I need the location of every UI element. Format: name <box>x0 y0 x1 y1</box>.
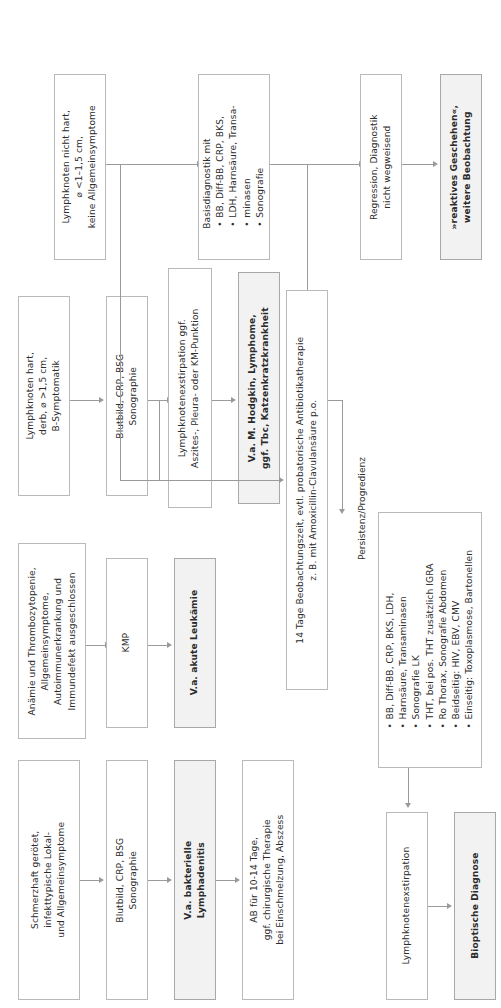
row3-connector-1 <box>70 400 100 401</box>
row1-arrow-2 <box>167 877 172 883</box>
row2-symptoms-line1: Anämie und Thrombozytopenie, <box>26 567 39 715</box>
extended-bullet-1-line2: Harnsäure, Transaminasen <box>398 596 408 719</box>
observation-box: 14 Tage Beobachtungszeit, evtl. probator… <box>286 290 328 690</box>
row1-therapy-text: AB für 10-14 Tage, ggf. chirurgische The… <box>248 815 288 945</box>
row3-suspicion-line1: V.a. M. Hodgkin, Lymphome, <box>246 307 259 469</box>
row1-symptoms-line2: infekttypische Lokal- <box>42 822 55 938</box>
row1-symptoms-line3: und Allgemeinsymptome <box>56 822 69 938</box>
extended-bullet-4-line1: Ro Thorax, Sonografie Abdomen <box>438 569 448 719</box>
row3-connector-3 <box>212 400 232 401</box>
row4-basis-bullet-1-cont-a: LDH, Harnsäure, Transa- <box>227 105 240 217</box>
row3-suspicion-text: V.a. M. Hodgkin, Lymphome, ggf. Tbc, Kat… <box>246 307 272 469</box>
persistenz-vertical <box>342 400 343 510</box>
row2-symptoms-box: Anämie und Thrombozytopenie, Allgemeinsy… <box>18 543 86 739</box>
row2-suspicion-box: V.a. akute Leukämie <box>174 558 216 728</box>
row3-symptoms-line1: Lymphknoten hart, <box>24 352 37 440</box>
extended-bullet-5: Beidseitig: HIV, EBV, CMV <box>450 550 463 720</box>
bus-row4-to-observation <box>120 480 280 481</box>
row1-suspicion-text: V.a. bakterielle Lymphadenitis <box>182 841 208 920</box>
row1-therapy-line1: AB für 10-14 Tage, <box>248 815 261 945</box>
persistenz-arrow <box>339 509 345 514</box>
row4-connector-2 <box>270 164 360 165</box>
row1-diagnostics-text: Blutbild, CRP, BSG Sonographie <box>114 838 140 923</box>
extended-bullet-1-line1: BB, Diff-BB, CRP, BKS, LDH, <box>385 592 395 719</box>
observation-line1: 14 Tage Beobachtungszeit, evtl. probator… <box>294 337 307 644</box>
row3-extirpation-line1: Lymphknotenexstirpation ggf. <box>177 308 190 467</box>
row1-therapy-line3: bei Einschmelzung, Abszess <box>275 815 288 945</box>
row4-symptoms-line1: Lymphknoten nicht hart, <box>60 105 73 228</box>
extended-bullet-6-line1: Einseitig: Toxoplasmose, Bartonellen <box>464 550 474 720</box>
row1-therapy-line2: ggf. chirurgische Therapie <box>261 815 274 945</box>
row4-symptoms-text: Lymphknoten nicht hart, ⌀ <1–1,5 cm, kei… <box>60 105 100 228</box>
row3-diagnostics-line2: Sonographie <box>127 354 140 439</box>
observation-line2: z. B. mit Amoxicillin-Clavulansäure p.o. <box>307 337 320 644</box>
bus-row4-arrow <box>279 477 284 483</box>
bioptic-diagnosis-line1: Bioptische Diagnose <box>468 853 481 959</box>
row2-connector-1 <box>86 645 106 646</box>
row3-suspicion-box: V.a. M. Hodgkin, Lymphome, ggf. Tbc, Kat… <box>238 272 280 504</box>
extended-bullet-4: Ro Thorax, Sonografie Abdomen <box>437 550 450 720</box>
row4-basis-bullet-1-line1: BB, Diff-BB, CRP, BKS, <box>215 116 225 218</box>
row3-extirpation-text: Lymphknotenexstirpation ggf. Aszites-, P… <box>177 308 203 467</box>
row3-arrow-1 <box>99 397 104 403</box>
row2-symptoms-line2: Allgemeinsymptome, <box>39 567 52 715</box>
extended-bullet-2-line1: Sonografie LK <box>411 655 421 719</box>
exstirpation-to-bioptic-line <box>428 906 448 907</box>
extended-bullet-list: BB, Diff-BB, CRP, BKS, LDH, Harnsäure, T… <box>384 550 476 731</box>
row4-basis-box: Basisdiagnostik mit BB, Diff-BB, CRP, BK… <box>198 74 270 260</box>
row1-suspicion-line2: Lymphadenitis <box>195 841 208 920</box>
row1-arrow-3 <box>235 877 240 883</box>
row4-reactive-box: »reaktives Geschehen«, weitere Beobachtu… <box>440 74 482 260</box>
row2-connector-2 <box>148 645 168 646</box>
extended-bullet-3: THT, bei pos. THT zusätzlich IGRA <box>423 550 436 720</box>
extended-diagnostics-box: BB, Diff-BB, CRP, BKS, LDH, Harnsäure, T… <box>378 512 482 768</box>
row4-basis-bullet-1-cont-b: minasen <box>241 105 254 217</box>
row2-symptoms-text: Anämie und Thrombozytopenie, Allgemeinsy… <box>26 567 79 715</box>
row3-symptoms-box: Lymphknoten hart, derb, ⌀ >1,5 cm, B-Sym… <box>18 296 70 496</box>
row3-suspicion-line2: ggf. Tbc, Katzenkratzkrankheit <box>259 307 272 469</box>
row2-suspicion-line1: V.a. akute Leukämie <box>188 590 201 696</box>
row1-arrow-1 <box>99 877 104 883</box>
row3-symptoms-text: Lymphknoten hart, derb, ⌀ >1,5 cm, B-Sym… <box>24 352 64 440</box>
exstirpation-line1: Lymphknotenexstirpation <box>400 847 413 965</box>
row1-symptoms-box: Schmerzhaft gerötet, infekttypische Loka… <box>18 760 80 1000</box>
extended-bullet-1-cont: Harnsäure, Transaminasen <box>397 550 410 720</box>
row2-arrow-2 <box>167 642 172 648</box>
persistenz-h-stub <box>328 400 342 401</box>
row4-symptoms-line3: keine Allgemeinsymptome <box>87 105 100 228</box>
row4-basis-header: Basisdiagnostik mit <box>201 105 214 228</box>
row3-arrow-3 <box>231 397 236 403</box>
extended-to-exstirpation-arrow <box>405 803 411 808</box>
row3-symptoms-line3: B-Symptomatik <box>51 352 64 440</box>
row1-connector-1 <box>80 880 100 881</box>
row3-connector-2 <box>148 400 168 401</box>
extended-bullet-3-line1: THT, bei pos. THT zusätzlich IGRA <box>424 563 434 719</box>
row1-suspicion-line1: V.a. bakterielle <box>182 841 195 920</box>
observation-text: 14 Tage Beobachtungszeit, evtl. probator… <box>294 337 320 644</box>
extended-bullet-6: Einseitig: Toxoplasmose, Bartonellen <box>463 550 476 720</box>
row2-diagnostics-text: KMP <box>120 633 133 653</box>
row3-extirpation-line2: Aszites-, Pleura- oder KM-Punktion <box>190 308 203 467</box>
row4-basis-bullet-2-line1: Sonografie <box>255 168 265 218</box>
extended-bullet-2: Sonografie LK <box>410 550 423 720</box>
row4-basis-bullet-1: BB, Diff-BB, CRP, BKS, <box>214 105 227 217</box>
row4-basis-bullet-2: Sonografie <box>254 105 267 217</box>
row3-symptoms-line2: derb, ⌀ >1,5 cm, <box>37 352 50 440</box>
row2-symptoms-line3: Autoimmunerkrankung und <box>52 567 65 715</box>
row4-regression-text: Regression, Diagnostik nicht wegweisend <box>368 114 394 220</box>
bus-row4-vertical <box>120 164 121 480</box>
row4-reactive-line2: weitere Beobachtung <box>461 105 474 229</box>
exstirpation-text: Lymphknotenexstirpation <box>400 847 413 965</box>
extended-diagnostics-text: BB, Diff-BB, CRP, BKS, LDH, Harnsäure, T… <box>384 550 476 731</box>
row4-basis-bullet-1-line3: minasen <box>242 178 252 217</box>
row3-diagnostics-box: Blutbild, CRP, BSG Sonographie <box>106 296 148 496</box>
bioptic-diagnosis-box: Bioptische Diagnose <box>454 812 496 1000</box>
exstirpation-box: Lymphknotenexstirpation <box>386 812 428 1000</box>
row2-diagnostics-box: KMP <box>106 558 148 728</box>
row4-symptoms-line2: ⌀ <1–1,5 cm, <box>73 105 86 228</box>
row4-basis-bullet-list: BB, Diff-BB, CRP, BKS, LDH, Harnsäure, T… <box>214 105 267 228</box>
row4-basis-bullet-1-line2: LDH, Harnsäure, Transa- <box>228 105 238 217</box>
row4-reactive-text: »reaktives Geschehen«, weitere Beobachtu… <box>448 105 474 229</box>
row2-symptoms-line4: Immundefekt ausgeschlossen <box>65 567 78 715</box>
row2-suspicion-text: V.a. akute Leukämie <box>188 590 201 696</box>
